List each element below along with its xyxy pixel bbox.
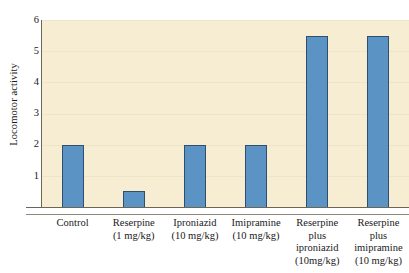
x-axis-category-label-line: iproniazid: [283, 242, 352, 255]
gridline: [42, 114, 409, 115]
x-axis-category-label: Control: [38, 217, 107, 230]
gridline: [42, 145, 409, 146]
x-axis-category-label-line: imipramine: [344, 242, 409, 255]
bar: [62, 145, 84, 207]
gridline: [42, 82, 409, 83]
x-axis-category-label-line: Reserpine: [344, 217, 409, 230]
x-axis-category-label-line: Reserpine: [99, 217, 168, 230]
x-axis-category-label: Reserpineplusimipramine(10 mg/kg): [344, 217, 409, 267]
x-axis-labels: ControlReserpine(1 mg/kg)Iproniazid(10 m…: [42, 217, 409, 273]
gridline: [42, 51, 409, 52]
x-axis-category-label-line: Reserpine: [283, 217, 352, 230]
bar: [306, 36, 328, 207]
plot-area: [42, 20, 409, 207]
bar: [245, 145, 267, 207]
x-axis-secondary-rule: [26, 214, 409, 215]
x-axis-category-label-line: plus: [283, 230, 352, 243]
y-axis-title-container: Locomotor activity: [0, 0, 26, 208]
x-axis-line: [26, 207, 409, 208]
x-axis-category-label-line: Control: [38, 217, 107, 230]
x-axis-category-label-line: (10 mg/kg): [222, 230, 291, 243]
y-axis-title: Locomotor activity: [8, 63, 19, 146]
gridline: [42, 176, 409, 177]
x-axis-category-label-line: (10 mg/kg): [344, 255, 409, 268]
x-axis-category-label: Iproniazid(10 mg/kg): [160, 217, 229, 242]
x-axis-category-label-line: Imipramine: [222, 217, 291, 230]
bar: [367, 36, 389, 207]
x-axis-category-label: Reserpineplusiproniazid(10mg/kg): [283, 217, 352, 267]
x-axis-category-label-line: (10 mg/kg): [160, 230, 229, 243]
x-axis-category-label-line: (1 mg/kg): [99, 230, 168, 243]
x-axis-category-label: Reserpine(1 mg/kg): [99, 217, 168, 242]
y-axis-ticks: 123456: [26, 14, 42, 210]
bar: [184, 145, 206, 207]
x-axis-category-label-line: plus: [344, 230, 409, 243]
x-axis-category-label-line: (10mg/kg): [283, 255, 352, 268]
x-axis-category-label: Imipramine(10 mg/kg): [222, 217, 291, 242]
bar: [123, 191, 145, 207]
bar-chart-figure: Locomotor activity 123456 ControlReserpi…: [0, 0, 409, 273]
gridline: [42, 20, 409, 21]
x-axis-category-label-line: Iproniazid: [160, 217, 229, 230]
